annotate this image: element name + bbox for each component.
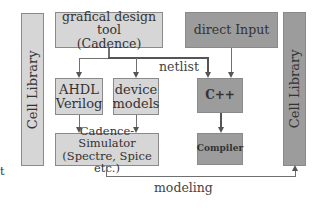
direct-input-arrow <box>228 72 234 78</box>
left-cell-library: Cell Library <box>21 13 44 166</box>
modeling-label: modeling <box>154 180 213 195</box>
modeling-arrow <box>292 165 298 171</box>
ahdl-arrow <box>76 72 82 78</box>
ahdl-line2: Verilog <box>56 97 103 111</box>
right-cell-library: Cell Library <box>283 12 306 166</box>
design-tool-box: grafical design tool (Cadence) <box>55 12 163 48</box>
cpp-compiler-line <box>220 113 222 127</box>
device-models-line1: device <box>115 83 158 97</box>
simulator-line1: Cadence-Simulator <box>56 125 158 149</box>
right-cell-library-label: Cell Library <box>288 50 302 129</box>
direct-input-box: direct Input <box>185 12 278 48</box>
design-tool-line1: grafical design tool <box>56 10 162 36</box>
ahdl-verilog-box: AHDL Verilog <box>55 78 103 115</box>
split-line-left <box>79 58 109 59</box>
modeling-line <box>106 176 296 177</box>
compiler-label: Compiler <box>197 144 243 153</box>
netlist-drop <box>207 57 209 73</box>
cpp-label: C++ <box>205 89 235 102</box>
direct-input-label: direct Input <box>194 23 269 36</box>
direct-input-drop <box>231 48 232 73</box>
device-models-box: device models <box>113 78 159 115</box>
stray-mark: t <box>0 165 4 178</box>
ahdl-drop <box>79 58 80 73</box>
simulator-line2: (Spectre, Spice etc.) <box>56 150 158 174</box>
left-cell-library-label: Cell Library <box>26 50 40 129</box>
device-sim-arrow <box>133 127 139 133</box>
device-models-line2: models <box>113 97 160 111</box>
ahdl-sim-arrow <box>76 127 82 133</box>
device-arrow <box>133 72 139 78</box>
cpp-compiler-arrow <box>218 127 224 133</box>
device-drop <box>136 58 137 73</box>
cpp-box: C++ <box>197 78 243 113</box>
ahdl-line1: AHDL <box>59 83 99 97</box>
netlist-label: netlist <box>159 59 199 74</box>
netlist-arrow <box>205 72 211 78</box>
modeling-rise <box>295 170 296 177</box>
modeling-drop <box>106 166 107 176</box>
cadence-simulator-box: Cadence-Simulator (Spectre, Spice etc.) <box>55 133 159 166</box>
compiler-box: Compiler <box>197 133 243 165</box>
